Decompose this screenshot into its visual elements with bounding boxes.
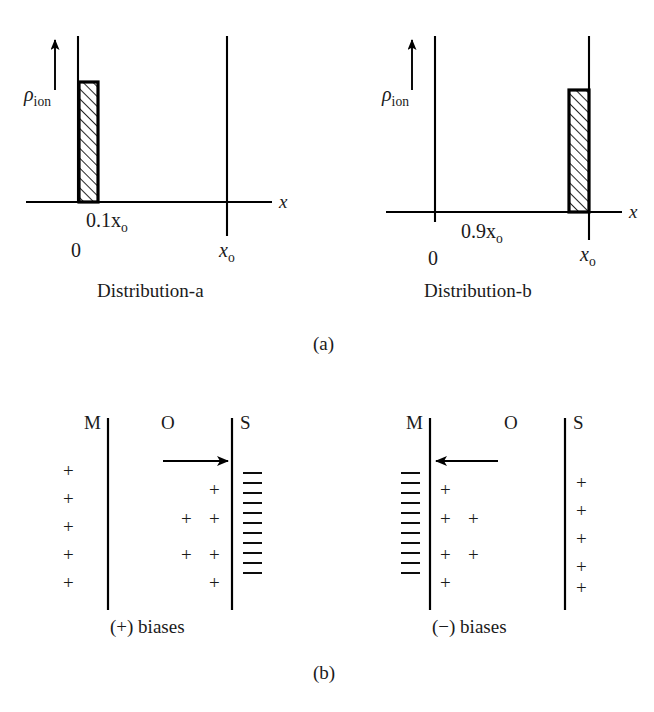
negative-bias-oxide-charge: + [440,509,451,528]
negative-bias-semiconductor-charge: + [576,557,587,576]
negative-bias-semiconductor-charge: + [576,501,587,520]
figure-root: ρion x 0.1xo 0 xo Distribution-a ρion x … [0,0,654,712]
positive-bias-metal-charge: + [63,545,74,564]
distribution-b-bar-tick-label: 0.9xo [461,221,503,246]
negative-bias-semiconductor-label: S [573,413,584,432]
positive-bias-oxide-label: O [161,413,175,432]
negative-bias-metal-negative-charges [401,473,420,573]
distribution-b-boundary-label: xo [580,244,596,269]
figure-vector-layer [0,0,654,712]
distribution-a-caption: Distribution-a [97,281,204,300]
positive-bias-metal-charge: + [63,489,74,508]
negative-bias-semiconductor-charge: + [576,578,587,597]
distribution-b-plot [386,36,622,240]
positive-bias-oxide-charge: + [209,573,220,592]
distribution-a-x-axis-label: x [279,192,287,211]
positive-bias-oxide-charge: + [181,545,192,564]
positive-bias-oxide-charge: + [209,509,220,528]
negative-bias-oxide-label: O [504,413,518,432]
negative-bias-oxide-charge: + [468,509,479,528]
negative-bias-metal-label: M [406,413,423,432]
part-a-caption: (a) [313,334,334,353]
negative-bias-oxide-charge: + [440,573,451,592]
positive-bias-metal-charge: + [63,573,74,592]
negative-bias-oxide-charge: + [440,480,451,499]
distribution-b-caption: Distribution-b [424,281,532,300]
distribution-b-origin-label: 0 [428,248,438,268]
negative-bias-semiconductor-charge: + [576,473,587,492]
distribution-a-plot [26,36,272,236]
positive-bias-oxide-charge: + [209,545,220,564]
negative-bias-caption: (−) biases [432,617,507,636]
distribution-a-origin-label: 0 [71,240,81,260]
positive-bias-oxide-charge: + [209,480,220,499]
negative-bias-oxide-charge: + [468,545,479,564]
positive-bias-semiconductor-label: S [240,413,251,432]
distribution-a-charge-bar [79,82,98,202]
distribution-b-rho-label: ρion [382,84,409,109]
positive-bias-metal-charge: + [63,517,74,536]
positive-bias-metal-label: M [84,413,101,432]
negative-bias-oxide-charge: + [440,545,451,564]
negative-bias-semiconductor-charge: + [576,529,587,548]
positive-bias-oxide-charge: + [181,509,192,528]
distribution-a-bar-tick-label: 0.1xo [86,210,128,235]
distribution-a-rho-label: ρion [24,84,51,109]
negative-bias-diagram [401,418,565,610]
distribution-b-x-axis-label: x [629,202,637,221]
positive-bias-semiconductor-negative-charges [243,473,262,573]
positive-bias-caption: (+) biases [110,617,185,636]
positive-bias-metal-charge: + [63,461,74,480]
part-b-caption: (b) [313,663,335,682]
distribution-b-charge-bar [569,90,589,212]
distribution-a-boundary-label: xo [219,240,235,265]
